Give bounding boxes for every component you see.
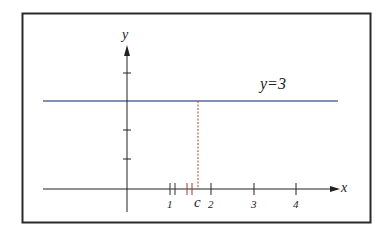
x-axis-label: x <box>341 180 347 196</box>
x-tick-label-3: 3 <box>251 198 257 210</box>
x-tick-label-2: 2 <box>208 198 214 210</box>
point-c-label: c <box>194 194 201 211</box>
line-label: y=3 <box>260 75 286 93</box>
x-tick-label-1: 1 <box>167 198 173 210</box>
y-axis-label: y <box>122 27 128 43</box>
x-tick-label-4: 4 <box>293 198 299 210</box>
